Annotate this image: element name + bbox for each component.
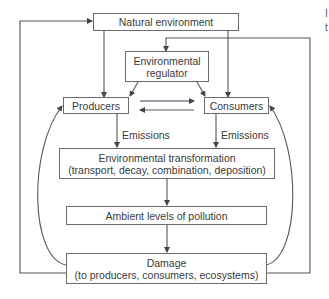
edge-label-producers-emissions: Emissions bbox=[122, 129, 170, 141]
node-label-line2: (transport, decay, combination, depositi… bbox=[68, 164, 266, 176]
node-label: Producers bbox=[72, 100, 120, 112]
node-ambient-levels: Ambient levels of pollution bbox=[66, 206, 267, 225]
node-label-line1: Environmental bbox=[133, 55, 200, 67]
node-environmental-transformation: Environmental transformation (transport,… bbox=[59, 148, 275, 179]
margin-fragment-2: t bbox=[325, 22, 328, 33]
node-natural-environment: Natural environment bbox=[93, 13, 239, 31]
margin-fragment-1: I bbox=[325, 8, 328, 19]
node-producers: Producers bbox=[63, 97, 129, 114]
node-consumers: Consumers bbox=[204, 97, 269, 114]
node-label-line2: (to producers, consumers, ecosystems) bbox=[75, 269, 259, 281]
node-label-line2: regulator bbox=[146, 67, 187, 79]
node-label: Consumers bbox=[210, 100, 264, 112]
node-environmental-regulator: Environmental regulator bbox=[125, 51, 209, 82]
node-label: Natural environment bbox=[119, 16, 214, 28]
node-label: Ambient levels of pollution bbox=[106, 210, 228, 222]
node-label-line1: Environmental transformation bbox=[98, 152, 235, 164]
node-damage: Damage (to producers, consumers, ecosyst… bbox=[66, 253, 267, 284]
edge-label-consumers-emissions: Emissions bbox=[221, 129, 269, 141]
node-label-line1: Damage bbox=[147, 257, 187, 269]
